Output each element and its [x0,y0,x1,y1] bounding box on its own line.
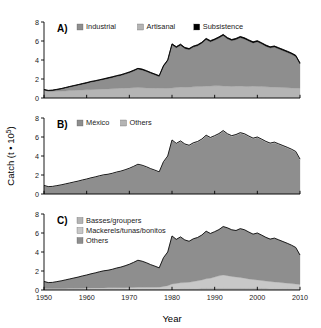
y-tick-label: 8 [35,210,39,219]
y-tick-label: 8 [35,114,39,123]
x-axis-title: Year [162,313,181,324]
legend-label-mackerels-tunas-bonitos: Mackerels/tunas/bonitos [86,226,166,235]
legend-swatch-artisanal [138,24,144,30]
legend-swatch-industrial [77,24,83,30]
y-axis-title-group: Catch (t • 105) [5,126,17,185]
legend-label-others: Others [86,236,108,245]
legend-swatch-m-xico [77,120,83,126]
panel-tag-B: B) [57,119,68,130]
legend-label-industrial: Industrial [86,22,116,31]
figure-container: 02468A)IndustrialArtisanalSubsistence024… [0,0,321,328]
y-tick-label: 6 [35,37,39,46]
x-tick-label: 2000 [249,293,265,302]
y-axis-title-text: Catch (t • 105) [5,126,17,185]
legend-label-basses-groupers: Basses/groupers [86,216,142,225]
x-tick-label: 1960 [79,293,95,302]
legend-swatch-others [121,120,127,126]
x-tick-label: 1980 [164,293,180,302]
legend-label-artisanal: Artisanal [147,22,176,31]
y-tick-label: 4 [35,152,39,161]
x-tick-label: 1970 [121,293,137,302]
legend-panel-A: IndustrialArtisanalSubsistence [77,22,243,31]
x-tick-label: 1990 [207,293,223,302]
y-tick-label: 2 [35,171,39,180]
x-tick-label: 2010 [292,293,308,302]
legend-label-m-xico: México [86,118,109,127]
legend-label-subsistence: Subsistence [203,22,243,31]
multi-panel-area-chart: 02468A)IndustrialArtisanalSubsistence024… [0,0,321,328]
y-tick-label: 4 [35,248,39,257]
y-tick-label: 2 [35,267,39,276]
x-tick-label: 1950 [36,293,52,302]
legend-swatch-basses-groupers [77,218,83,224]
panel-tag-A: A) [57,23,68,34]
y-tick-label: 0 [35,190,39,199]
y-tick-label: 0 [35,94,39,103]
panel-tag-C: C) [57,215,68,226]
legend-swatch-others [77,238,83,244]
y-tick-label: 8 [35,18,39,27]
legend-label-others: Others [130,118,152,127]
y-tick-label: 6 [35,229,39,238]
y-axis-title: Catch (t • 105) [5,126,17,185]
y-tick-label: 6 [35,133,39,142]
legend-swatch-subsistence [194,24,200,30]
y-tick-label: 4 [35,56,39,65]
legend-swatch-mackerels-tunas-bonitos [77,228,83,234]
y-tick-label: 2 [35,75,39,84]
